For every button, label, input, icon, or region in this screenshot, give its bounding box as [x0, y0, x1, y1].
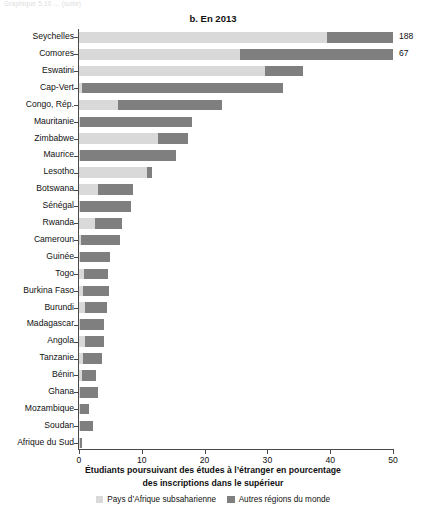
y-axis-label: Zimbabwe — [0, 133, 74, 143]
chart-title: b. En 2013 — [0, 13, 426, 24]
stacked-bar — [79, 83, 283, 94]
bar-row: Cap-Vert — [0, 80, 426, 97]
y-axis-tick — [74, 257, 79, 258]
stacked-bar — [79, 302, 107, 313]
y-axis-tick — [74, 308, 79, 309]
bar-segment-other — [80, 438, 83, 449]
y-axis-tick — [74, 156, 79, 157]
stacked-bar — [79, 353, 102, 364]
y-axis-label: Soudan — [0, 420, 74, 430]
stacked-bar — [79, 235, 120, 246]
bar-row: Ghana — [0, 384, 426, 401]
bar-segment-other — [80, 387, 98, 398]
stacked-bar — [79, 269, 108, 280]
y-axis-label: Eswatini — [0, 65, 74, 75]
y-axis-label: Maurice — [0, 149, 74, 159]
bar-row: Soudan — [0, 418, 426, 435]
bar-value-label: 67 — [399, 48, 409, 58]
legend-swatch-icon — [227, 496, 235, 504]
y-axis-tick — [74, 291, 79, 292]
bar-row: Mozambique — [0, 401, 426, 418]
x-axis-tick — [330, 449, 331, 454]
stacked-bar — [79, 336, 104, 347]
stacked-bar — [79, 66, 303, 77]
bar-row: Zimbabwe — [0, 130, 426, 147]
bar-segment-other — [95, 218, 121, 229]
legend-swatch-icon — [96, 496, 104, 504]
x-axis-tick — [393, 449, 394, 454]
y-axis-label: Togo — [0, 268, 74, 278]
y-axis-tick — [74, 409, 79, 410]
stacked-bar — [79, 252, 110, 263]
bar-segment-other — [118, 100, 222, 111]
legend-label: Autres régions du monde — [239, 495, 330, 504]
stacked-bar — [79, 133, 188, 144]
bar-row: Comores67 — [0, 46, 426, 63]
y-axis-tick — [74, 54, 79, 55]
stacked-bar — [79, 218, 122, 229]
legend-label: Pays d’Afrique subsaharienne — [107, 495, 216, 504]
bar-row: Rwanda — [0, 215, 426, 232]
y-axis-label: Ghana — [0, 386, 74, 396]
bar-segment-other — [82, 370, 96, 381]
bar-segment-other — [80, 150, 175, 161]
y-axis-tick — [74, 71, 79, 72]
x-axis-tick — [79, 449, 80, 454]
bar-segment-ssa — [79, 32, 327, 43]
stacked-bar — [79, 404, 89, 415]
bar-segment-other — [85, 302, 107, 313]
stacked-bar — [79, 100, 222, 111]
y-axis-tick — [74, 173, 79, 174]
y-axis-label: Congo, Rép. — [0, 99, 74, 109]
stacked-bar — [79, 438, 82, 449]
y-axis-label: Angola — [0, 335, 74, 345]
y-axis-label: Comores — [0, 48, 74, 58]
y-axis-label: Mauritanie — [0, 116, 74, 126]
y-axis-tick — [74, 88, 79, 89]
bar-row: Sénégal — [0, 198, 426, 215]
y-axis-label: Botswana — [0, 183, 74, 193]
y-axis-label: Lesotho — [0, 166, 74, 176]
bar-segment-other — [80, 404, 89, 415]
y-axis-tick — [74, 325, 79, 326]
bar-segment-ssa — [79, 167, 147, 178]
stacked-bar — [79, 150, 176, 161]
legend-other: Autres régions du monde — [227, 495, 330, 504]
bar-segment-other — [240, 49, 393, 60]
stacked-bar — [79, 167, 152, 178]
y-axis-label: Madagascar — [0, 318, 74, 328]
stacked-bar — [79, 117, 192, 128]
bar-segment-ssa — [79, 66, 265, 77]
y-axis-label: Bénin — [0, 369, 74, 379]
bar-row: Togo — [0, 266, 426, 283]
faint-source-header: Graphique 5.10 ... (suite) — [4, 0, 81, 7]
bar-segment-other — [158, 133, 188, 144]
legend-ssa: Pays d’Afrique subsaharienne — [96, 495, 216, 504]
y-axis-label: Cameroun — [0, 234, 74, 244]
stacked-bar — [79, 370, 96, 381]
y-axis-tick — [74, 426, 79, 427]
y-axis-tick — [74, 206, 79, 207]
stacked-bar — [79, 387, 98, 398]
x-axis-tick — [142, 449, 143, 454]
y-axis-label: Tanzanie — [0, 352, 74, 362]
y-axis-label: Guinée — [0, 251, 74, 261]
bar-segment-other — [82, 83, 283, 94]
bar-segment-other — [83, 353, 102, 364]
y-axis-label: Seychelles — [0, 31, 74, 41]
bar-row: Bénin — [0, 367, 426, 384]
x-axis-tick — [205, 449, 206, 454]
bar-row: Congo, Rép. — [0, 97, 426, 114]
y-axis-label: Burundi — [0, 302, 74, 312]
bar-row: Madagascar — [0, 316, 426, 333]
stacked-bar — [79, 421, 93, 432]
y-axis-label: Afrique du Sud — [0, 437, 74, 447]
chart-legend: Pays d’Afrique subsaharienneAutres régio… — [0, 495, 426, 504]
y-axis-tick — [74, 37, 79, 38]
y-axis-tick — [74, 375, 79, 376]
bar-segment-ssa — [79, 184, 98, 195]
bar-row: Maurice — [0, 147, 426, 164]
bar-segment-other — [81, 235, 120, 246]
y-axis-label: Burkina Faso — [0, 285, 74, 295]
y-axis-tick — [74, 122, 79, 123]
